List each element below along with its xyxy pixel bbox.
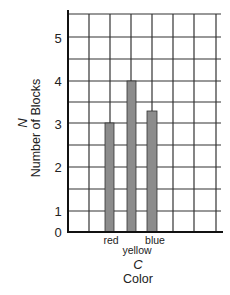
x-tick-label-blue: blue <box>145 235 165 246</box>
bar-blue <box>147 111 157 232</box>
y-tick-label: 5 <box>54 32 61 45</box>
x-tick-label-red: red <box>103 235 118 246</box>
bars <box>105 81 157 232</box>
axes <box>67 10 223 232</box>
y-tick-label: 1 <box>54 205 61 218</box>
x-axis-title: Color <box>123 273 153 286</box>
y-axis-title: Number of Blocks <box>30 79 43 178</box>
x-tick-label-yellow: yellow <box>122 245 151 256</box>
y-tick-label: 3 <box>54 118 61 131</box>
y-tick-label: 4 <box>54 75 61 88</box>
y-axis-symbol: N <box>16 118 29 127</box>
x-axis-symbol: C <box>133 258 142 271</box>
y-tick-label: 2 <box>54 161 61 174</box>
grid-lines <box>68 14 221 232</box>
bar-yellow <box>127 81 136 232</box>
bar-red <box>105 123 114 232</box>
y-tick-label: 0 <box>54 226 61 239</box>
